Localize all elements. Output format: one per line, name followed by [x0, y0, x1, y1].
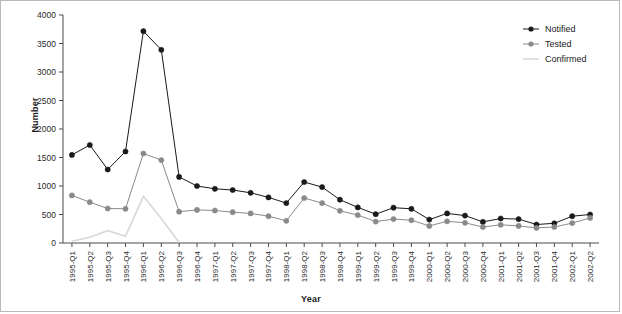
- x-tick-label: 2001-Q2: [515, 250, 524, 282]
- data-point: [409, 206, 414, 211]
- data-point: [498, 216, 503, 221]
- x-tick-label: 2002-Q2: [586, 250, 595, 282]
- x-tick-label: 1997-Q4: [264, 250, 273, 282]
- y-tick-label: 500: [42, 210, 56, 220]
- data-point: [445, 211, 450, 216]
- x-tick-label: 1998-Q2: [300, 250, 309, 282]
- x-tick-label: 1995-Q2: [86, 250, 95, 282]
- data-point: [230, 210, 235, 215]
- x-tick-label: 2000-Q2: [443, 250, 452, 282]
- legend-label-notified: Notified: [545, 24, 576, 34]
- x-tick-label: 1999-Q3: [390, 250, 399, 282]
- data-point: [427, 223, 432, 228]
- x-tick-label: 2000-Q1: [425, 250, 434, 282]
- data-point: [302, 195, 307, 200]
- data-point: [141, 151, 146, 156]
- x-tick-label: 1996-Q1: [139, 250, 148, 282]
- x-tick-label: 1996-Q3: [175, 250, 184, 282]
- data-point: [87, 142, 92, 147]
- data-point: [248, 190, 253, 195]
- data-point: [498, 222, 503, 227]
- x-tick-label: 1996-Q4: [193, 250, 202, 282]
- data-point: [302, 179, 307, 184]
- data-point: [177, 209, 182, 214]
- data-point: [141, 29, 146, 34]
- chart-legend: NotifiedTestedConfirmed: [523, 24, 587, 64]
- x-tick-label: 1997-Q3: [247, 250, 256, 282]
- y-tick-label: 3000: [37, 67, 56, 77]
- data-point: [355, 213, 360, 218]
- data-point: [159, 47, 164, 52]
- x-tick-label: 2001-Q3: [532, 250, 541, 282]
- data-point: [266, 195, 271, 200]
- data-point: [462, 220, 467, 225]
- data-point: [516, 217, 521, 222]
- y-axis-ticks: 05001000150020002500300035004000: [37, 10, 63, 248]
- data-point: [552, 224, 557, 229]
- x-tick-label: 2001-Q1: [497, 250, 506, 282]
- data-point: [534, 225, 539, 230]
- data-point: [373, 219, 378, 224]
- chart-figure: Number Year 0500100015002000250030003500…: [0, 0, 620, 312]
- data-point: [337, 208, 342, 213]
- x-tick-label: 1995-Q4: [122, 250, 131, 282]
- x-tick-label: 1998-Q3: [318, 250, 327, 282]
- data-point: [480, 219, 485, 224]
- x-tick-label: 1998-Q1: [282, 250, 291, 282]
- data-point: [284, 218, 289, 223]
- data-point: [445, 219, 450, 224]
- x-tick-label: 2000-Q4: [479, 250, 488, 282]
- data-point: [123, 149, 128, 154]
- x-tick-label: 2000-Q3: [461, 250, 470, 282]
- data-point: [266, 214, 271, 219]
- y-tick-label: 2000: [37, 124, 56, 134]
- x-tick-label: 1999-Q1: [354, 250, 363, 282]
- y-tick-label: 3500: [37, 39, 56, 49]
- x-tick-label: 1996-Q2: [157, 250, 166, 282]
- x-tick-label: 1995-Q1: [68, 250, 77, 282]
- series-notified: [69, 29, 592, 227]
- data-point: [391, 217, 396, 222]
- y-tick-label: 1500: [37, 153, 56, 163]
- data-point: [320, 185, 325, 190]
- data-point: [194, 207, 199, 212]
- data-point: [570, 221, 575, 226]
- data-point: [194, 183, 199, 188]
- data-point: [248, 211, 253, 216]
- y-tick-label: 2500: [37, 96, 56, 106]
- data-point: [177, 174, 182, 179]
- data-point: [462, 213, 467, 218]
- data-point: [105, 206, 110, 211]
- data-point: [87, 200, 92, 205]
- y-tick-label: 0: [51, 238, 56, 248]
- data-point: [337, 197, 342, 202]
- data-point: [588, 215, 593, 220]
- x-tick-label: 2001-Q4: [550, 250, 559, 282]
- y-tick-label: 4000: [37, 10, 56, 20]
- x-tick-label: 1995-Q3: [104, 250, 113, 282]
- x-tick-label: 1997-Q1: [211, 250, 220, 282]
- data-point: [212, 186, 217, 191]
- x-tick-label: 1999-Q4: [407, 250, 416, 282]
- data-point: [570, 214, 575, 219]
- legend-label-confirmed: Confirmed: [545, 54, 587, 64]
- x-axis-ticks: 1995-Q11995-Q21995-Q31995-Q41996-Q11996-…: [68, 243, 595, 282]
- x-tick-label: 1998-Q4: [336, 250, 345, 282]
- y-tick-label: 1000: [37, 181, 56, 191]
- data-series-layer: [69, 29, 592, 243]
- data-point: [373, 212, 378, 217]
- data-point: [391, 205, 396, 210]
- data-point: [230, 187, 235, 192]
- data-point: [320, 201, 325, 206]
- data-point: [355, 205, 360, 210]
- data-point: [123, 206, 128, 211]
- data-point: [516, 223, 521, 228]
- x-tick-label: 1997-Q2: [229, 250, 238, 282]
- data-point: [69, 193, 74, 198]
- data-point: [409, 218, 414, 223]
- data-point: [284, 201, 289, 206]
- data-point: [159, 158, 164, 163]
- line-chart-plot: 05001000150020002500300035004000 1995-Q1…: [1, 1, 621, 313]
- data-point: [480, 224, 485, 229]
- data-point: [427, 217, 432, 222]
